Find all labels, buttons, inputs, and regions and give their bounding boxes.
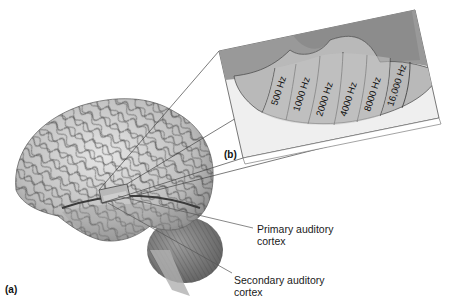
primary-label-line2: cortex xyxy=(257,235,333,247)
panel-b-label: (b) xyxy=(224,149,237,160)
primary-auditory-cortex-label: Primary auditory cortex xyxy=(257,223,333,247)
cerebrum xyxy=(16,99,214,241)
panel-a-label: (a) xyxy=(5,284,17,295)
secondary-label-line1: Secondary auditory xyxy=(234,274,324,286)
secondary-label-line2: cortex xyxy=(234,286,324,298)
secondary-auditory-cortex-label: Secondary auditory cortex xyxy=(234,274,324,298)
tonotopic-panel: 500 Hz 1000 Hz 2000 Hz 4000 Hz 8000 Hz 1… xyxy=(210,0,445,164)
primary-label-line1: Primary auditory xyxy=(257,223,333,235)
